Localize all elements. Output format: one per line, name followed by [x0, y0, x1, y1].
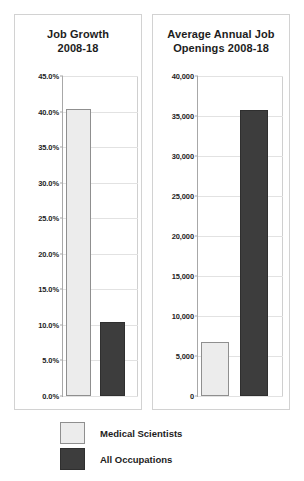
y-axis-tick-label: 0.0% [42, 392, 59, 401]
y-tick-mark [195, 156, 198, 157]
chart-title-job-openings: Average Annual Job Openings 2008-18 [153, 27, 289, 55]
chart-title-line-1: Average Annual Job [153, 27, 289, 41]
y-axis-tick-label: 5.0% [42, 356, 59, 365]
y-axis-tick-label: 15.0% [38, 285, 59, 294]
chart-title-job-growth: Job Growth 2008-18 [15, 27, 141, 55]
gridline [198, 396, 283, 397]
legend-label-all-occupations: All Occupations [100, 454, 172, 465]
chart-title-line-2: Openings 2008-18 [153, 41, 289, 55]
legend-swatch-light [60, 422, 85, 444]
gridline [198, 76, 283, 77]
bar-medical-scientists [201, 342, 229, 396]
y-tick-mark [60, 253, 63, 254]
chart-legend: Medical Scientists All Occupations [60, 420, 182, 472]
legend-swatch-dark [60, 448, 85, 470]
legend-item-all-occupations: All Occupations [60, 446, 182, 472]
y-axis-tick-label: 0 [190, 392, 194, 401]
y-tick-mark [195, 316, 198, 317]
plot-area-job-openings: 05,00010,00015,00020,00025,00030,00035,0… [197, 76, 283, 397]
y-axis-tick-label: 15,000 [172, 272, 194, 281]
plot-area-job-growth: 0.0%5.0%10.0%15.0%20.0%25.0%30.0%35.0%40… [62, 76, 138, 397]
y-axis-tick-label: 20,000 [172, 232, 194, 241]
y-tick-mark [60, 111, 63, 112]
y-axis-tick-label: 35.0% [38, 143, 59, 152]
y-tick-mark [60, 324, 63, 325]
gridline [63, 396, 138, 397]
y-axis-tick-label: 25.0% [38, 214, 59, 223]
y-axis-tick-label: 25,000 [172, 192, 194, 201]
y-axis-tick-label: 10.0% [38, 320, 59, 329]
y-tick-mark [60, 182, 63, 183]
y-axis-tick-label: 40.0% [38, 107, 59, 116]
y-axis-tick-label: 45.0% [38, 72, 59, 81]
y-tick-mark [195, 356, 198, 357]
y-tick-mark [60, 218, 63, 219]
legend-item-medical-scientists: Medical Scientists [60, 420, 182, 446]
y-tick-mark [195, 116, 198, 117]
y-tick-mark [195, 76, 198, 77]
y-tick-mark [60, 360, 63, 361]
y-axis-tick-label: 40,000 [172, 72, 194, 81]
y-axis-tick-label: 30.0% [38, 178, 59, 187]
chart-title-line-2: 2008-18 [15, 41, 141, 55]
y-axis-tick-label: 30,000 [172, 152, 194, 161]
y-tick-mark [60, 76, 63, 77]
y-axis-tick-label: 5,000 [176, 352, 194, 361]
chart-title-line-1: Job Growth [15, 27, 141, 41]
bar-all-occupations [240, 110, 268, 396]
y-tick-mark [195, 236, 198, 237]
y-tick-mark [195, 276, 198, 277]
y-tick-mark [60, 396, 63, 397]
chart-panel-job-growth: Job Growth 2008-18 0.0%5.0%10.0%15.0%20.… [14, 14, 142, 410]
y-tick-mark [195, 396, 198, 397]
y-axis-tick-label: 20.0% [38, 249, 59, 258]
y-axis-tick-label: 10,000 [172, 312, 194, 321]
y-axis-tick-label: 35,000 [172, 112, 194, 121]
bar-medical-scientists [66, 109, 91, 396]
bar-all-occupations [100, 322, 125, 396]
y-tick-mark [60, 289, 63, 290]
y-tick-mark [195, 196, 198, 197]
y-tick-mark [60, 147, 63, 148]
legend-label-medical-scientists: Medical Scientists [100, 428, 182, 439]
gridline [63, 76, 138, 77]
chart-panel-job-openings: Average Annual Job Openings 2008-18 05,0… [152, 14, 290, 410]
